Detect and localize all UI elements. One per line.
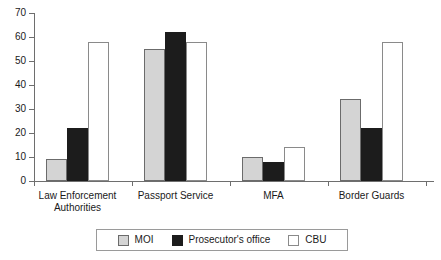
chart-legend: MOI Prosecutor's office CBU	[96, 229, 348, 251]
legend-label-cbu: CBU	[305, 235, 326, 245]
bar-cbu-group-2	[186, 42, 207, 181]
bar-prosecutors-office-group-2	[165, 32, 186, 181]
y-tick-70	[29, 13, 34, 14]
x-axis-line	[34, 181, 434, 182]
y-tick-30	[29, 109, 34, 110]
category-label-1: Law Enforcement Authorities	[23, 190, 133, 213]
category-label-3: MFA	[219, 190, 329, 202]
y-tick-60	[29, 37, 34, 38]
x-tick-3	[328, 181, 329, 186]
y-tick-label-70: 70	[15, 8, 26, 18]
x-tick-1	[132, 181, 133, 186]
category-label-2: Passport Service	[121, 190, 231, 202]
x-tick-4	[426, 181, 427, 186]
legend-item-prosecutors-office: Prosecutor's office	[172, 235, 271, 246]
x-tick-2	[230, 181, 231, 186]
y-tick-label-40: 40	[15, 80, 26, 90]
y-tick-10	[29, 157, 34, 158]
bar-chart: 010203040506070 Law Enforcement Authorit…	[0, 0, 441, 260]
y-tick-label-30: 30	[15, 104, 26, 114]
y-tick-40	[29, 85, 34, 86]
y-tick-label-50: 50	[15, 56, 26, 66]
bar-moi-group-2	[144, 49, 165, 181]
bar-prosecutors-office-group-1	[67, 128, 88, 181]
legend-label-moi: MOI	[135, 235, 154, 245]
y-tick-label-20: 20	[15, 128, 26, 138]
plot-area: 010203040506070 Law Enforcement Authorit…	[0, 0, 441, 215]
category-label-4: Border Guards	[317, 190, 427, 202]
y-axis-line	[34, 13, 35, 182]
legend-swatch-prosecutors-office	[172, 235, 183, 246]
y-tick-50	[29, 61, 34, 62]
y-tick-label-60: 60	[15, 32, 26, 42]
bar-prosecutors-office-group-3	[263, 162, 284, 181]
legend-label-prosecutors-office: Prosecutor's office	[189, 235, 271, 245]
y-tick-20	[29, 133, 34, 134]
y-tick-label-0: 0	[20, 176, 26, 186]
bar-cbu-group-3	[284, 147, 305, 181]
bar-moi-group-1	[46, 159, 67, 181]
bar-cbu-group-1	[88, 42, 109, 181]
legend-swatch-cbu	[288, 235, 299, 246]
bar-cbu-group-4	[382, 42, 403, 181]
x-tick-0	[34, 181, 35, 186]
bar-moi-group-3	[242, 157, 263, 181]
y-tick-label-10: 10	[15, 152, 26, 162]
bar-moi-group-4	[340, 99, 361, 181]
bar-prosecutors-office-group-4	[361, 128, 382, 181]
legend-item-cbu: CBU	[288, 235, 326, 246]
legend-swatch-moi	[118, 235, 129, 246]
legend-item-moi: MOI	[118, 235, 154, 246]
